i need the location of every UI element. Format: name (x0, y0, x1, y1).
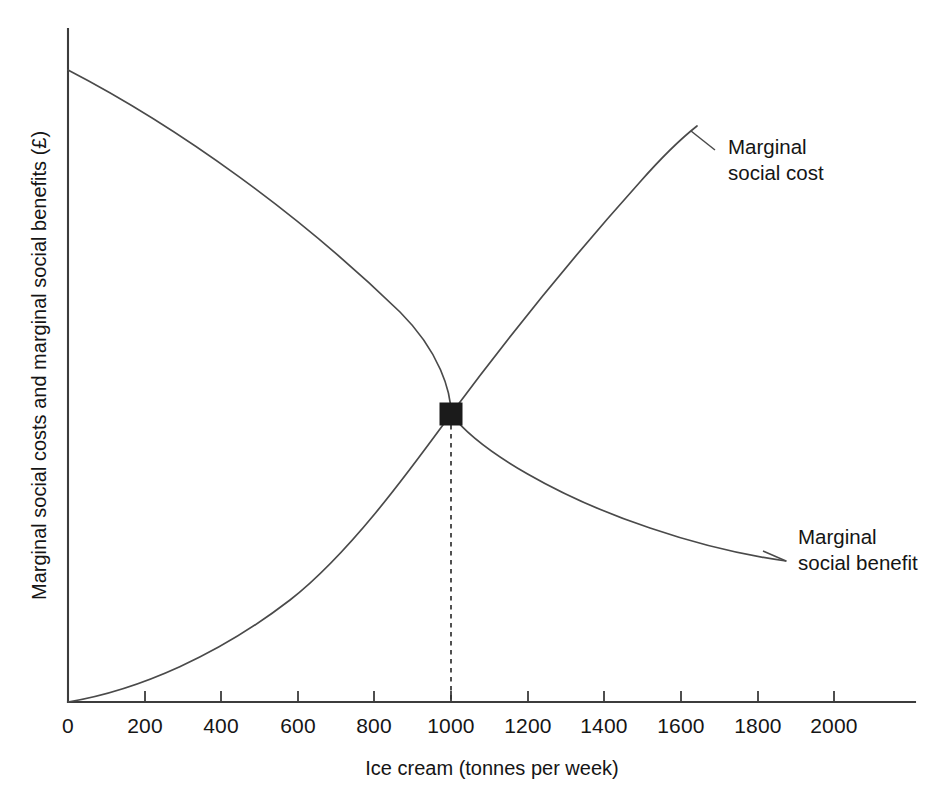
chart-figure: 0 200 400 600 800 1000 1200 1400 1600 18… (0, 0, 943, 806)
marginal-social-benefit-label: Marginal social benefit (798, 524, 918, 576)
x-tick-label-200: 200 (127, 714, 163, 738)
marginal-social-cost-curve (68, 126, 697, 702)
x-tick-label-0: 0 (62, 714, 74, 738)
x-tick-label-1800: 1800 (734, 714, 782, 738)
msb-label-line-1: Marginal (798, 524, 918, 550)
y-axis-title: Marginal social costs and marginal socia… (28, 131, 51, 600)
equilibrium-point-marker (440, 403, 462, 425)
x-tick-label-400: 400 (203, 714, 239, 738)
msc-label-leader-line (691, 131, 715, 150)
msb-label-line-2: social benefit (798, 550, 918, 576)
x-tick-label-2000: 2000 (810, 714, 858, 738)
chart-plot-area (0, 0, 943, 806)
x-tick-label-600: 600 (280, 714, 316, 738)
x-tick-label-1000: 1000 (427, 714, 475, 738)
msc-label-line-2: social cost (728, 160, 824, 186)
x-tick-label-1400: 1400 (580, 714, 628, 738)
msc-label-line-1: Marginal (728, 134, 824, 160)
x-axis-title: Ice cream (tonnes per week) (365, 757, 618, 780)
x-tick-label-1600: 1600 (657, 714, 705, 738)
marginal-social-cost-label: Marginal social cost (728, 134, 824, 186)
x-tick-label-1200: 1200 (504, 714, 552, 738)
marginal-social-benefit-curve (68, 70, 786, 561)
x-tick-label-800: 800 (356, 714, 392, 738)
